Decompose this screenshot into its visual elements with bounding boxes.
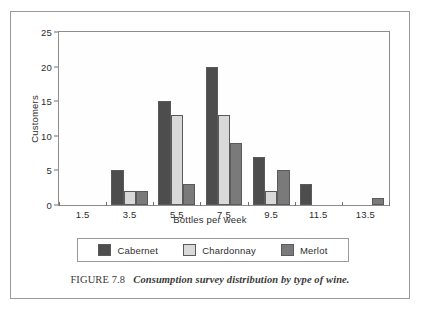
bar <box>206 67 218 205</box>
bar <box>158 101 170 205</box>
bar <box>124 191 136 205</box>
bar <box>218 115 230 205</box>
figure-frame: Customers 0510152025 1.53.55.57.59.511.5… <box>10 11 410 299</box>
bar-group <box>347 32 384 205</box>
legend-item[interactable]: Cabernet <box>98 244 158 256</box>
bar-group <box>158 32 195 205</box>
chart-legend: CabernetChardonnayMerlot <box>77 238 349 262</box>
bar-group <box>300 32 337 205</box>
x-axis-tick-mark <box>248 202 249 206</box>
bar-group <box>64 32 101 205</box>
legend-swatch-icon <box>281 244 294 256</box>
figure-caption: FIGURE 7.8 Consumption survey distributi… <box>11 274 409 285</box>
x-axis-tick-mark <box>153 202 154 206</box>
legend-item[interactable]: Merlot <box>281 244 328 256</box>
bar-group <box>206 32 243 205</box>
y-axis-tick-mark <box>54 66 58 67</box>
bar <box>253 157 265 205</box>
bar <box>372 198 384 205</box>
legend-swatch-icon <box>98 244 111 256</box>
legend-label: Merlot <box>300 245 328 256</box>
bar <box>277 170 289 205</box>
y-axis-tick-mark <box>54 170 58 171</box>
x-axis-tick-mark <box>106 202 107 206</box>
bar <box>136 191 148 205</box>
y-axis-tick-label: 10 <box>41 130 52 141</box>
y-axis-tick-mark <box>54 32 58 33</box>
figure-caption-prefix: FIGURE 7.8 <box>70 274 125 285</box>
y-axis-ticks: 0510152025 <box>28 31 58 206</box>
y-axis-tick-label: 25 <box>41 27 52 38</box>
bar-group <box>111 32 148 205</box>
y-axis-tick-label: 0 <box>47 200 52 211</box>
bar <box>183 184 195 205</box>
bar-group <box>253 32 290 205</box>
bar <box>171 115 183 205</box>
x-axis-title: Bottles per week <box>11 214 409 225</box>
bar <box>111 170 123 205</box>
bar <box>230 143 242 205</box>
y-axis-tick-label: 15 <box>41 96 52 107</box>
y-axis-tick-mark <box>54 135 58 136</box>
figure-caption-text: Consumption survey distribution by type … <box>133 274 349 285</box>
legend-item[interactable]: Chardonnay <box>183 244 256 256</box>
bars-layer <box>59 32 389 205</box>
x-axis-tick-mark <box>59 202 60 206</box>
plot-region: Customers 0510152025 1.53.55.57.59.511.5… <box>58 31 390 206</box>
legend-label: Chardonnay <box>202 245 256 256</box>
y-axis-tick-label: 20 <box>41 61 52 72</box>
x-axis-tick-mark <box>342 202 343 206</box>
x-axis-tick-mark <box>295 202 296 206</box>
bar <box>265 191 277 205</box>
y-axis-tick-mark <box>54 101 58 102</box>
bar <box>300 184 312 205</box>
y-axis-tick-label: 5 <box>47 165 52 176</box>
legend-swatch-icon <box>183 244 196 256</box>
legend-label: Cabernet <box>117 245 158 256</box>
x-axis-tick-mark <box>200 202 201 206</box>
x-axis-tick-mark <box>389 202 390 206</box>
